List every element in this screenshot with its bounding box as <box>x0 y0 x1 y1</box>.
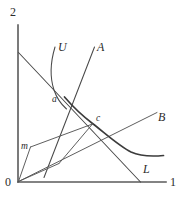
curve-l <box>19 53 141 183</box>
curve-b <box>19 113 158 182</box>
figure-root: 2 1 0 U A B L a c m <box>0 0 181 197</box>
point-m-label: m <box>21 142 28 152</box>
point-c-label: c <box>96 114 100 124</box>
x-axis-right-label: 1 <box>170 176 176 188</box>
figure-canvas <box>0 0 181 197</box>
segment-origin-to-node <box>19 164 60 182</box>
curve-a-label: A <box>97 41 104 53</box>
curve-l-label: L <box>143 163 150 175</box>
origin-label: 0 <box>5 176 11 188</box>
curve-b-label: B <box>158 111 165 123</box>
curve-offer <box>65 97 164 156</box>
y-axis-top-label: 2 <box>10 6 16 18</box>
point-a-label: a <box>52 95 57 105</box>
curve-u-label: U <box>58 41 67 53</box>
